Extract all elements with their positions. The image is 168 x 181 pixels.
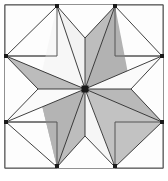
junction-mark-top-right xyxy=(113,4,117,8)
junction-mark-bottom-left xyxy=(55,164,59,168)
quilt-block-figure xyxy=(0,0,168,181)
center-hub-dot xyxy=(82,86,89,93)
junction-mark-bottom-right xyxy=(113,164,117,168)
star-quilt-block-drawing xyxy=(0,0,168,181)
junction-mark-top-left xyxy=(55,4,59,8)
junction-mark-right-top xyxy=(160,54,164,58)
junction-mark-right-bottom xyxy=(160,120,164,124)
junction-mark-left-bottom xyxy=(4,120,8,124)
junction-mark-left-top xyxy=(4,54,8,58)
